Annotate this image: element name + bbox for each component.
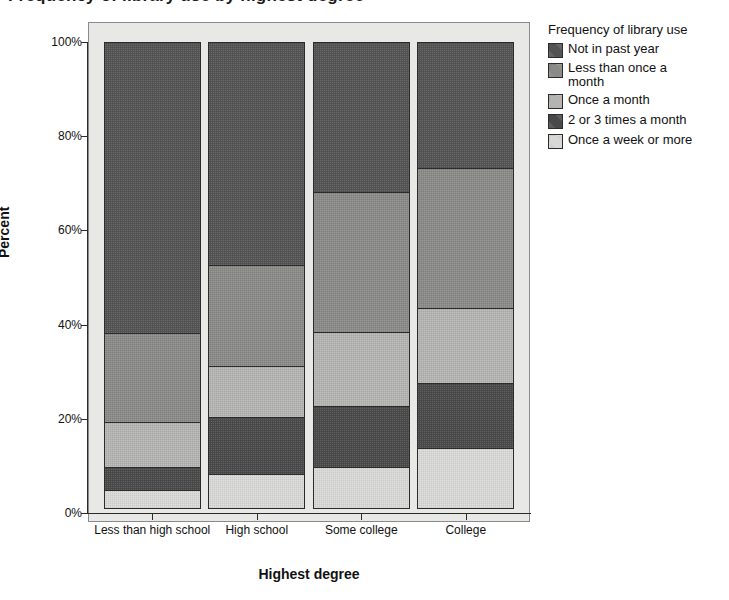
y-tick-label: 20% <box>40 412 82 426</box>
legend-item[interactable]: Not in past year <box>548 41 726 58</box>
y-tick-label: 40% <box>40 318 82 332</box>
chart-page: Frequency of library use by highest degr… <box>0 0 729 600</box>
legend-label: Once a week or more <box>568 132 692 147</box>
y-tick-mark <box>81 419 88 420</box>
x-tick-mark <box>361 513 362 520</box>
legend: Frequency of library use Not in past yea… <box>548 22 726 152</box>
bar-segment[interactable] <box>417 168 514 309</box>
bar-segment[interactable] <box>104 333 201 423</box>
legend-swatch <box>548 63 563 78</box>
y-tick-label: 100% <box>40 35 82 49</box>
legend-item[interactable]: Once a week or more <box>548 132 726 149</box>
bar-segment[interactable] <box>417 448 514 509</box>
bar-segment[interactable] <box>208 42 305 266</box>
y-tick-label: 80% <box>40 129 82 143</box>
legend-item[interactable]: Once a month <box>548 92 726 109</box>
bar-segment[interactable] <box>313 192 410 333</box>
legend-items: Not in past yearLess than once amonthOnc… <box>548 41 726 149</box>
x-tick-mark <box>152 513 153 520</box>
stacked-bar[interactable] <box>104 42 201 513</box>
bar-segment[interactable] <box>104 467 201 491</box>
plot-area <box>100 42 518 513</box>
bar-segment[interactable] <box>313 332 410 407</box>
y-tick-mark <box>81 230 88 231</box>
y-tick-mark <box>81 42 88 43</box>
x-tick-label: College <box>401 523 531 537</box>
legend-item[interactable]: Less than once amonth <box>548 61 726 89</box>
bar-segment[interactable] <box>208 366 305 418</box>
bar-segment[interactable] <box>208 265 305 367</box>
x-axis-line <box>87 513 531 514</box>
stacked-bar[interactable] <box>417 42 514 513</box>
bar-segment[interactable] <box>313 406 410 467</box>
stacked-bar[interactable] <box>208 42 305 513</box>
y-tick-label: 0% <box>40 506 82 520</box>
x-tick-mark <box>257 513 258 520</box>
bar-segment[interactable] <box>417 383 514 449</box>
legend-label: Once a month <box>568 92 650 107</box>
legend-title: Frequency of library use <box>548 22 726 37</box>
bar-segment[interactable] <box>104 490 201 509</box>
bar-segment[interactable] <box>313 467 410 509</box>
legend-swatch <box>548 43 563 58</box>
y-tick-mark <box>81 513 88 514</box>
chart-title: Frequency of library use by highest degr… <box>8 0 364 6</box>
legend-label: Less than once amonth <box>568 61 667 89</box>
y-tick-mark <box>81 136 88 137</box>
legend-label: Not in past year <box>568 41 659 56</box>
legend-label: 2 or 3 times a month <box>568 112 687 127</box>
y-tick-label: 60% <box>40 223 82 237</box>
bar-segment[interactable] <box>313 42 410 193</box>
bar-segment[interactable] <box>208 417 305 475</box>
y-axis-line <box>87 42 88 513</box>
stacked-bar[interactable] <box>313 42 410 513</box>
legend-swatch <box>548 134 563 149</box>
legend-swatch <box>548 114 563 129</box>
legend-swatch <box>548 94 563 109</box>
x-axis-title: Highest degree <box>100 566 518 582</box>
bar-segment[interactable] <box>417 308 514 383</box>
bar-segment[interactable] <box>417 42 514 169</box>
bar-segment[interactable] <box>208 474 305 509</box>
bar-segment[interactable] <box>104 42 201 334</box>
y-tick-mark <box>81 325 88 326</box>
y-axis-title: Percent <box>0 207 12 258</box>
x-tick-mark <box>466 513 467 520</box>
bar-segment[interactable] <box>104 422 201 468</box>
legend-item[interactable]: 2 or 3 times a month <box>548 112 726 129</box>
